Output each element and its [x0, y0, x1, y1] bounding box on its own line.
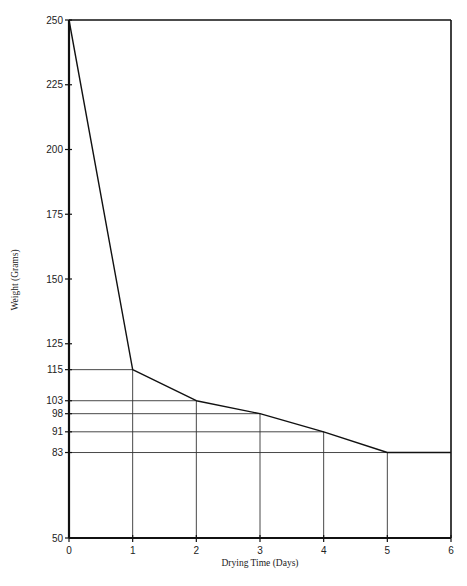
- x-tick-label: 0: [66, 545, 72, 556]
- y-tick-label: 225: [46, 79, 63, 90]
- y-tick-label: 50: [52, 533, 64, 544]
- x-tick-label: 4: [321, 545, 327, 556]
- y-tick-label: 103: [46, 395, 63, 406]
- x-tick-label: 6: [448, 545, 454, 556]
- x-tick-label: 2: [194, 545, 200, 556]
- drop-lines: [69, 370, 387, 538]
- x-axis-title: Drying Time (Days): [221, 558, 298, 569]
- y-tick-label: 83: [52, 447, 64, 458]
- y-tick-label: 175: [46, 209, 63, 220]
- y-axis-title: Weight (Grams): [10, 249, 21, 310]
- x-tick-label: 1: [130, 545, 136, 556]
- x-tick-label: 3: [257, 545, 263, 556]
- weight-series-line: [69, 20, 451, 453]
- y-tick-label: 250: [46, 15, 63, 26]
- y-tick-label: 200: [46, 144, 63, 155]
- x-tick-label: 5: [385, 545, 391, 556]
- drying-weight-chart: 50839198103115125150175200225250 0123456…: [0, 0, 467, 586]
- y-tick-label: 115: [47, 364, 63, 375]
- y-tick-label: 98: [52, 408, 64, 419]
- y-tick-label: 91: [52, 426, 64, 437]
- y-tick-label: 125: [46, 338, 63, 349]
- weight-line: [69, 20, 451, 453]
- y-tick-label: 150: [46, 274, 63, 285]
